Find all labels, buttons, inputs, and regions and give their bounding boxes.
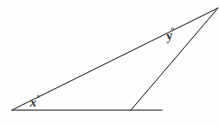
angle-x-degree-symbol: ° — [36, 93, 40, 103]
angle-diagram-figure: x° y° — [0, 0, 219, 126]
angle-label-x: x° — [30, 94, 40, 109]
